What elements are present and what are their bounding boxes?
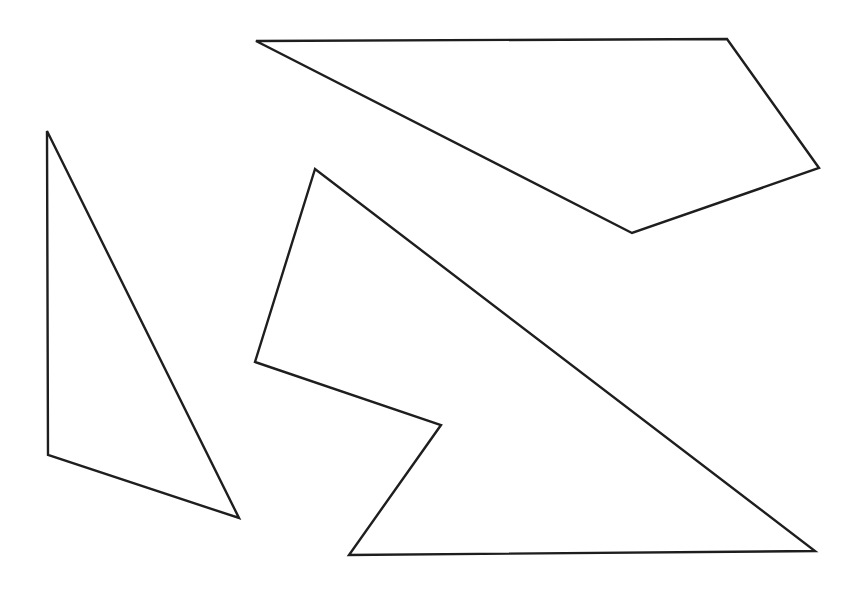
shapes-svg [0,0,861,589]
pentagon-bottom-shape [255,169,815,555]
triangle-left-shape [47,131,239,518]
diagram-canvas [0,0,861,589]
